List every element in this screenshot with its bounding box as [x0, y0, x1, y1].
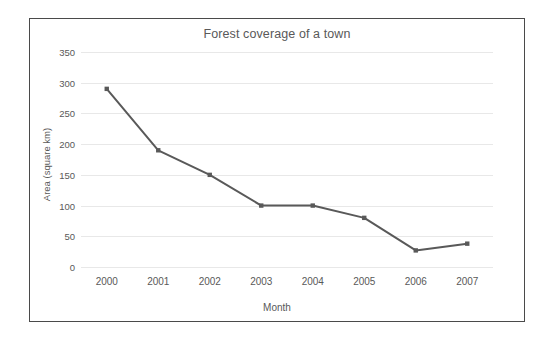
x-tick-label: 2006: [405, 276, 427, 287]
x-tick-label: 2005: [353, 276, 375, 287]
data-point-marker: [465, 241, 469, 245]
data-point-marker: [414, 248, 418, 252]
y-tick-label: 250: [59, 108, 75, 119]
x-tick-label: 2002: [199, 276, 221, 287]
x-axis-title: Month: [30, 302, 524, 313]
y-tick-label: 300: [59, 77, 75, 88]
x-tick-label: 2003: [250, 276, 272, 287]
y-tick-label: 150: [59, 169, 75, 180]
data-point-marker: [311, 203, 315, 207]
data-point-marker: [208, 173, 212, 177]
gridline: [81, 267, 493, 268]
chart-frame: Forest coverage of a town Area (square k…: [29, 18, 525, 322]
data-point-marker: [362, 216, 366, 220]
x-tick-label: 2007: [456, 276, 478, 287]
y-tick-label: 100: [59, 200, 75, 211]
y-axis-title: Area (square km): [41, 105, 52, 225]
series-markers: [105, 87, 470, 253]
data-point-marker: [156, 148, 160, 152]
data-point-marker: [105, 87, 109, 91]
x-tick-label: 2001: [147, 276, 169, 287]
y-tick-label: 350: [59, 47, 75, 58]
plot-area: 050100150200250300350 200020012002200320…: [81, 52, 493, 267]
data-point-marker: [259, 203, 263, 207]
y-tick-label: 200: [59, 139, 75, 150]
x-tick-label: 2000: [96, 276, 118, 287]
line-series: [81, 52, 493, 267]
series-polyline: [107, 89, 468, 251]
y-tick-label: 0: [70, 262, 75, 273]
chart-title: Forest coverage of a town: [30, 27, 524, 41]
y-tick-label: 50: [64, 231, 75, 242]
x-tick-label: 2004: [302, 276, 324, 287]
